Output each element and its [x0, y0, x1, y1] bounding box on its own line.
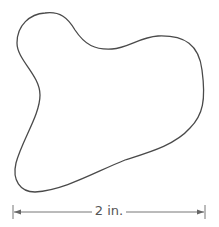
figure-drawing: [0, 0, 219, 227]
left-arrowhead-icon: [14, 210, 21, 215]
irregular-blob-outline: [15, 13, 204, 192]
right-arrowhead-icon: [197, 210, 204, 215]
irregular-shape-figure: 2 in.: [0, 0, 219, 227]
dimension-label: 2 in.: [94, 203, 124, 219]
